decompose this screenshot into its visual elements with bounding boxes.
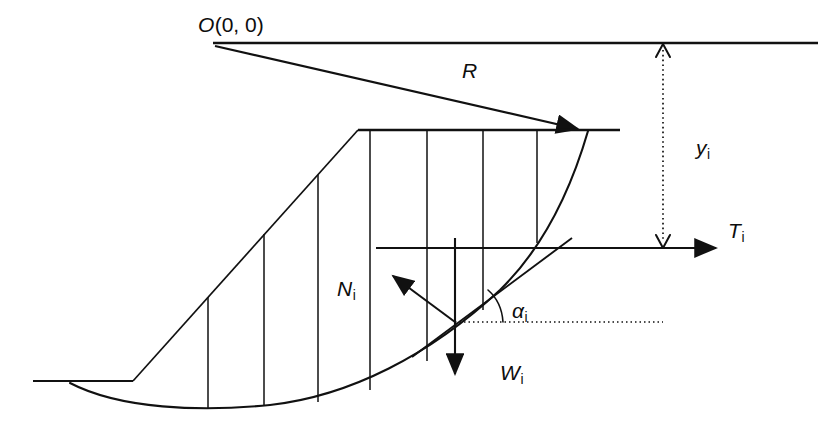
normal-force-subscript: i bbox=[353, 287, 356, 303]
base-tangent-line bbox=[412, 238, 572, 357]
origin-coordinates: (0, 0) bbox=[215, 13, 264, 36]
slope-profile bbox=[33, 130, 620, 381]
slice-weight-symbol: W bbox=[500, 361, 520, 384]
radius-label: R bbox=[462, 60, 477, 81]
moment-arm-label: yi bbox=[696, 137, 710, 158]
radius-arrow-line bbox=[215, 46, 578, 129]
slope-stability-figure: O(0, 0) R yi Ti Ni αi Wi bbox=[0, 0, 823, 443]
tangential-force-label: Ti bbox=[728, 220, 744, 241]
moment-arm-symbol: y bbox=[696, 136, 707, 159]
base-inclination-subscript: i bbox=[525, 309, 528, 325]
slice-division-lines bbox=[208, 130, 537, 409]
normal-force-symbol: N bbox=[337, 277, 352, 300]
slope-face-line bbox=[133, 130, 358, 381]
diagram-canvas bbox=[0, 0, 823, 443]
base-inclination-label: αi bbox=[512, 300, 527, 321]
moment-arm-subscript: i bbox=[707, 146, 710, 162]
tangential-force-symbol: T bbox=[728, 219, 741, 242]
origin-label: O(0, 0) bbox=[198, 14, 264, 35]
radius-symbol: R bbox=[462, 59, 477, 82]
radius-vector bbox=[215, 46, 578, 129]
normal-force-label: Ni bbox=[337, 278, 355, 299]
yi-arrowhead-bottom bbox=[656, 235, 670, 248]
normal-force-arrow bbox=[393, 276, 455, 322]
yi-dimension bbox=[656, 44, 670, 248]
origin-symbol: O bbox=[198, 13, 215, 36]
slice-weight-label: Wi bbox=[500, 362, 523, 383]
base-inclination-symbol: α bbox=[512, 299, 524, 322]
